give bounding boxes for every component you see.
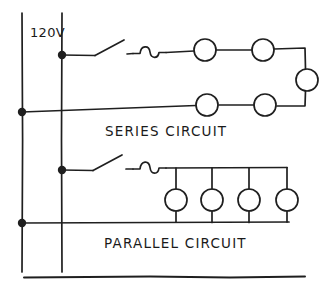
series-fuse-icon [133,47,166,57]
series-wire-right-to-lamp4 [277,91,306,106]
parallel-neutral-return [22,222,289,223]
parallel-fuse-icon [133,162,166,173]
series-neutral-return [22,106,196,113]
series-lamp-3 [296,69,318,91]
series-circuit-caption: SERIES CIRCUIT [105,123,227,139]
series-lamp-2 [252,39,274,61]
series-switch-contact [127,54,133,55]
bottom-border-line [24,277,305,278]
parallel-hot-lead [62,170,93,171]
junction-neutral-series-dot [18,108,26,116]
series-switch-blade [95,40,124,56]
circuit-diagram-canvas: 120V SERIES CIRCUIT PARALLEL CIRCUIT [0,0,330,293]
parallel-lamp-4 [276,189,298,211]
junction-neutral-parallel-dot [18,219,26,227]
junction-hot-parallel-dot [58,166,66,174]
parallel-lamp-3 [238,189,260,211]
circuit-diagram-svg: 120V SERIES CIRCUIT PARALLEL CIRCUIT [0,0,330,293]
junction-hot-series-dot [58,51,66,59]
neutral-bus-left [22,13,23,272]
junction-dots-group [18,51,66,227]
series-lamp-4 [254,94,276,116]
parallel-top-rail [166,168,287,169]
parallel-switch-blade [93,155,122,171]
series-wire-lamp2-to-right [274,48,306,69]
parallel-circuit-caption: PARALLEL CIRCUIT [104,235,247,251]
series-lamp-5 [196,94,218,116]
parallel-lamp-1 [165,189,187,211]
series-lamp-1 [194,39,216,61]
supply-voltage-label: 120V [30,25,65,40]
parallel-lamp-2 [201,189,223,211]
series-hot-lead [62,55,95,56]
series-wire-fuse-to-lamp1 [166,51,194,53]
